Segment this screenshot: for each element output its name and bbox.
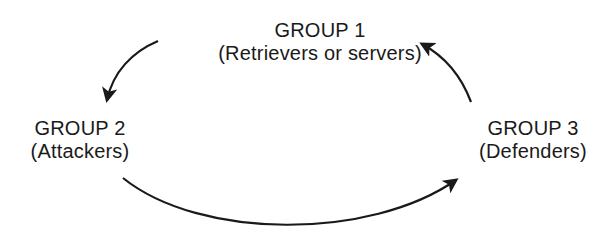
arrow-group1-to-group2 [107,41,158,100]
cycle-arrows [0,0,602,249]
arrow-group3-to-group1 [422,44,471,102]
arrow-group2-to-group3 [123,178,456,225]
